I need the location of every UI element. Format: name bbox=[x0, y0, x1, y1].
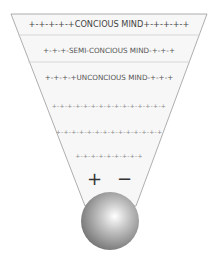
level-deep-3: +-+-+-+-+-+-+-+-+ bbox=[0, 151, 218, 161]
level-conscious-mind: +-+-+-+-+CONCIOUS MIND+-+-+-+-+ bbox=[0, 19, 218, 29]
plus-sign: + bbox=[87, 170, 102, 188]
level-unconscious-mind: +-+-+-+UNCONCIOUS MIND-+-+-+ bbox=[0, 73, 218, 83]
minus-sign: − bbox=[117, 170, 132, 188]
level-deep-1: +-+-+-+-+-+-+-+-+-+-+-+-+-+-+ bbox=[0, 101, 218, 111]
sphere-icon bbox=[81, 192, 139, 250]
level-deep-2: +-+-+-+-+-+-+-+-+-+-+-+-+-+ bbox=[0, 127, 218, 137]
level-semi-conscious-mind: +-+-+-SEMI-CONCIOUS MIND-+-+-+ bbox=[0, 46, 218, 56]
